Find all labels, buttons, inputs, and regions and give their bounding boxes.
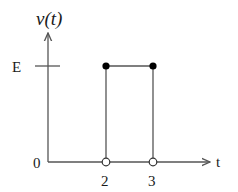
x-tick-2: 2 [101, 173, 109, 189]
origin-label: 0 [33, 155, 41, 171]
open-dot-left [102, 158, 110, 166]
x-tick-3: 3 [148, 173, 156, 189]
filled-dot-right [149, 62, 156, 69]
open-dot-right [149, 158, 157, 166]
y-axis-label: v(t) [36, 8, 62, 30]
pulse-diagram: v(t) E 0 2 3 t [0, 0, 238, 192]
x-axis-label: t [216, 154, 221, 170]
filled-dot-left [102, 62, 109, 69]
level-label: E [12, 59, 21, 75]
